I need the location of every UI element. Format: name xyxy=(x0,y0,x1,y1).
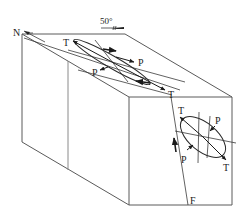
top-P-axis-left xyxy=(100,67,108,70)
front-T-bottom-label: T xyxy=(223,162,229,173)
fault-shear-arrow xyxy=(174,138,176,152)
top-P-right-label: P xyxy=(138,57,144,68)
front-P-axis-lower xyxy=(187,145,193,150)
front-face-structure: F T T P P xyxy=(171,97,236,206)
dip-angle-label: 50° xyxy=(100,16,113,26)
fault-block-diagram: N 50° T T P P F xyxy=(0,0,249,220)
front-P-bottom-label: P xyxy=(181,154,187,165)
left-bottom-edge xyxy=(22,142,129,205)
north-label: N xyxy=(13,27,20,38)
front-P-top-label: P xyxy=(215,115,221,126)
front-T-top-label: T xyxy=(178,105,184,116)
top-fault-trace-2 xyxy=(68,50,185,82)
top-surface-structure: T T P P xyxy=(24,35,185,100)
front-vertical-line-1 xyxy=(198,112,199,163)
top-P-left-label: P xyxy=(92,67,98,78)
top-T-left-label: T xyxy=(63,37,69,48)
dip-indicator: 50° xyxy=(100,16,124,30)
fault-label: F xyxy=(190,195,196,206)
top-fault-trace-1 xyxy=(24,38,180,90)
